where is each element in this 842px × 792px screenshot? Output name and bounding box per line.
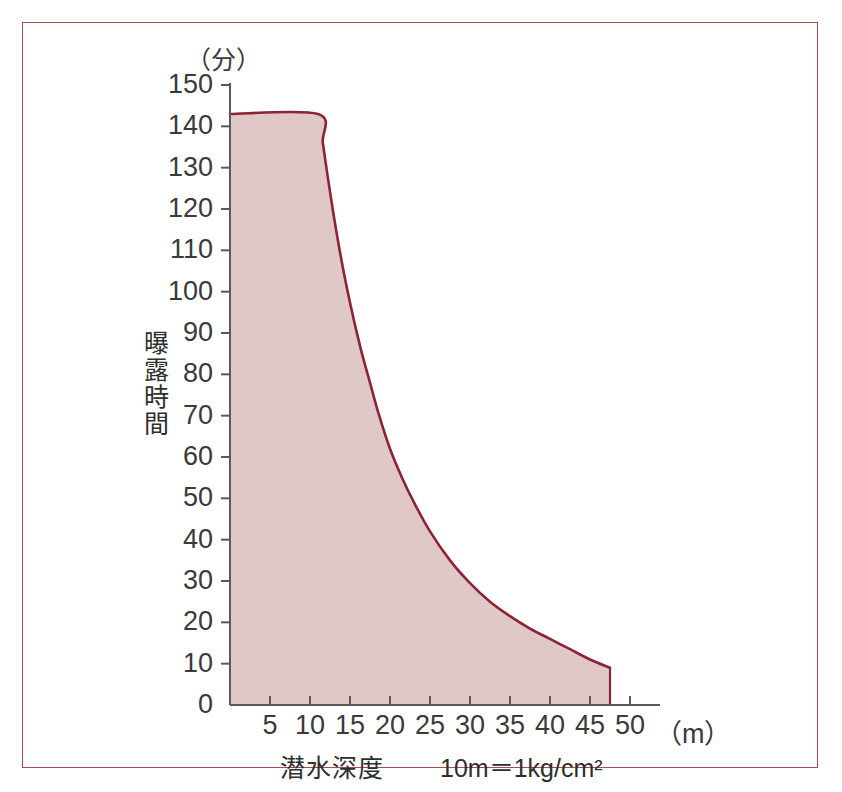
x-axis-title: 潜水深度	[280, 748, 384, 784]
x-tick-label: 50	[600, 712, 660, 739]
x-axis-unit-label: （m）	[655, 712, 732, 751]
chart-figure: （分） 曝露時間 0102030405060708090100110120130…	[0, 0, 842, 792]
x-axis-tick-labels: 5101520253035404550	[0, 0, 842, 792]
x-axis-pressure-note: 10m＝1kg/cm²	[440, 748, 603, 784]
scanned-page: （分） 曝露時間 0102030405060708090100110120130…	[0, 0, 842, 792]
